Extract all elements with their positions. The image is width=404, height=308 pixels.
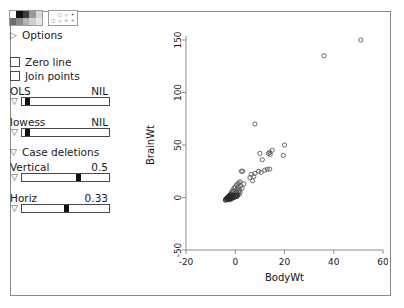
chevron-down-icon[interactable]: ▽ (10, 97, 19, 106)
options-disclosure[interactable]: ▷ Options (9, 29, 116, 41)
y-tick-label: -50 (173, 242, 183, 257)
case-deletions-disclosure[interactable]: ▽ Case deletions (9, 146, 116, 158)
chevron-right-icon: ▷ (9, 31, 18, 40)
chevron-down-icon[interactable]: ▽ (10, 204, 19, 213)
data-point[interactable] (281, 153, 285, 157)
slider-header: Vertical 0.5 (10, 161, 110, 173)
color-swatch-palette-icon[interactable] (9, 10, 43, 26)
slider-value: NIL (91, 85, 108, 97)
case-deletions-label: Case deletions (22, 146, 99, 158)
slider-track[interactable] (21, 97, 110, 106)
data-point[interactable] (250, 179, 254, 183)
slider-lowess[interactable]: lowess NIL ▽ (10, 116, 110, 137)
chevron-down-icon: ▽ (9, 148, 18, 157)
slider-track[interactable] (21, 128, 110, 137)
x-tick-label: 40 (328, 257, 340, 267)
options-label: Options (22, 29, 63, 41)
panel-spacer (8, 137, 116, 144)
scatter-plot-canvas[interactable]: -50050100150-200204060BodyWtBrainWt (140, 22, 388, 290)
y-tick-label: 0 (173, 194, 183, 200)
x-tick-label: 0 (232, 257, 238, 267)
slider-header: lowess NIL (10, 116, 110, 128)
slider-horiz[interactable]: Horiz 0.33 ▽ (10, 192, 110, 213)
panel-spacer (8, 106, 116, 113)
scatter-plot[interactable]: -50050100150-200204060BodyWtBrainWt (140, 22, 388, 290)
slider-header: Horiz 0.33 (10, 192, 110, 204)
chevron-down-icon[interactable]: ▽ (10, 128, 19, 137)
palette-toolbar: ·□◇✦ □◇✕✕ (9, 10, 116, 26)
y-tick-label: 150 (173, 31, 183, 48)
slider-value: 0.5 (91, 161, 108, 173)
y-axis-title: BrainWt (145, 125, 156, 165)
data-point-group[interactable] (223, 38, 363, 202)
data-point[interactable] (282, 143, 286, 147)
data-point[interactable] (253, 122, 257, 126)
slider-track[interactable] (21, 204, 110, 213)
slider-vertical[interactable]: Vertical 0.5 ▽ (10, 161, 110, 182)
y-tick-label: 50 (173, 139, 183, 151)
slider-header: OLS NIL (10, 85, 110, 97)
data-point[interactable] (258, 151, 262, 155)
checkbox-label: Zero line (25, 56, 71, 68)
slider-handle[interactable] (76, 174, 81, 181)
slider-handle[interactable] (25, 98, 30, 105)
plot-symbol-palette-icon[interactable]: ·□◇✦ □◇✕✕ (48, 10, 78, 26)
checkbox-join-points[interactable]: Join points (10, 70, 116, 82)
x-tick-label: 60 (377, 257, 388, 267)
checkbox-label: Join points (25, 70, 80, 82)
x-tick-label: 20 (279, 257, 291, 267)
slider-value: 0.33 (85, 192, 108, 204)
slider-handle[interactable] (25, 129, 30, 136)
data-point[interactable] (359, 38, 363, 42)
data-point[interactable] (260, 158, 264, 162)
slider-ols[interactable]: OLS NIL ▽ (10, 85, 110, 106)
slider-value: NIL (91, 116, 108, 128)
panel-spacer (8, 43, 116, 56)
control-panel: ·□◇✦ □◇✕✕ ▷ Options Zero line Join point… (8, 10, 116, 213)
checkbox-zero-line[interactable]: Zero line (10, 56, 116, 68)
slider-track[interactable] (21, 173, 110, 182)
x-tick-label: -20 (179, 257, 194, 267)
chevron-down-icon[interactable]: ▽ (10, 173, 19, 182)
checkbox-box-icon[interactable] (10, 71, 20, 81)
slider-handle[interactable] (64, 205, 69, 212)
y-tick-label: 100 (173, 84, 183, 101)
x-axis-title: BodyWt (265, 272, 304, 283)
panel-spacer (8, 182, 116, 189)
checkbox-box-icon[interactable] (10, 57, 20, 67)
data-point[interactable] (322, 54, 326, 58)
